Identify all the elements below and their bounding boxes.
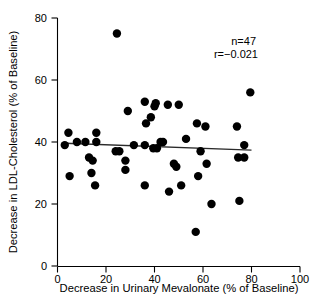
data-point <box>92 138 100 146</box>
data-points <box>61 29 255 236</box>
y-tick-label-80: 80 <box>35 12 47 24</box>
annotation-correlation: r=−0.021 <box>214 48 258 60</box>
data-point <box>165 187 173 195</box>
plot-canvas: 020406080 020406080100 Decrease in Urina… <box>0 0 318 303</box>
y-tick-label-20: 20 <box>35 198 47 210</box>
y-axis-title: Decrease in LDL-Cholesterol (% of Baseli… <box>7 30 19 253</box>
data-point <box>233 122 241 130</box>
data-point <box>177 181 185 189</box>
data-point <box>61 141 69 149</box>
data-point <box>240 141 248 149</box>
x-axis-ticks <box>58 267 301 273</box>
data-point <box>175 101 183 109</box>
data-point <box>113 29 121 37</box>
data-point <box>196 147 204 155</box>
data-point <box>202 160 210 168</box>
data-point <box>246 88 254 96</box>
data-point <box>182 135 190 143</box>
data-point <box>141 141 149 149</box>
data-point <box>235 197 243 205</box>
scatter-plot-figure: 020406080 020406080100 Decrease in Urina… <box>0 0 318 303</box>
data-point <box>164 101 172 109</box>
x-axis-title: Decrease in Urinary Mevalonate (% of Bas… <box>60 282 299 294</box>
data-point <box>147 113 155 121</box>
data-point <box>88 156 96 164</box>
data-point <box>159 138 167 146</box>
data-point <box>121 156 129 164</box>
data-point <box>192 228 200 236</box>
data-point <box>201 122 209 130</box>
y-axis-tick-labels: 020406080 <box>35 12 47 272</box>
data-point <box>141 98 149 106</box>
data-point <box>172 163 180 171</box>
data-point <box>81 138 89 146</box>
data-point <box>193 119 201 127</box>
data-point <box>115 147 123 155</box>
data-point <box>64 129 72 137</box>
annotation-sample-size: n=47 <box>231 35 256 47</box>
data-point <box>92 129 100 137</box>
data-point <box>87 169 95 177</box>
data-point <box>73 138 81 146</box>
y-tick-label-0: 0 <box>41 260 47 272</box>
data-point <box>240 153 248 161</box>
y-tick-label-60: 60 <box>35 74 47 86</box>
data-point <box>194 172 202 180</box>
y-tick-label-40: 40 <box>35 136 47 148</box>
data-point <box>124 107 132 115</box>
data-point <box>141 181 149 189</box>
data-point <box>91 181 99 189</box>
data-point <box>152 99 160 107</box>
data-point <box>121 166 129 174</box>
data-point <box>130 141 138 149</box>
data-point <box>65 172 73 180</box>
y-axis-ticks <box>52 18 58 266</box>
data-point <box>207 200 215 208</box>
